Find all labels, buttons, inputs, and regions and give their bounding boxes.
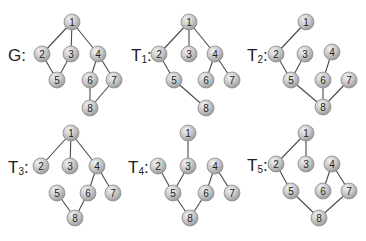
- node-2: 2: [151, 46, 167, 62]
- node-label: 7: [346, 75, 352, 86]
- node-6: 6: [198, 185, 214, 201]
- node-6: 6: [315, 183, 331, 199]
- node-label: 7: [346, 186, 352, 197]
- node-label: 3: [68, 49, 74, 60]
- node-label: 6: [320, 75, 326, 86]
- node-label: 4: [329, 47, 335, 58]
- node-label: 4: [94, 161, 100, 172]
- node-label: 1: [185, 128, 191, 139]
- node-8: 8: [315, 99, 331, 115]
- graph-g: G:12345678: [8, 14, 122, 116]
- graph-t3: T3:12345678: [8, 125, 121, 226]
- node-label: 3: [186, 49, 192, 60]
- node-label: 6: [203, 75, 209, 86]
- node-7: 7: [105, 185, 121, 201]
- node-1: 1: [64, 14, 80, 30]
- graph-t2: T2:12345678: [247, 14, 357, 115]
- node-label: 7: [111, 75, 117, 86]
- node-3: 3: [181, 46, 197, 62]
- graph-t1: T1:12345678: [131, 14, 240, 116]
- node-6: 6: [82, 72, 98, 88]
- node-label: 4: [212, 49, 218, 60]
- node-8: 8: [311, 210, 327, 226]
- node-2: 2: [150, 158, 166, 174]
- node-label: 3: [67, 161, 73, 172]
- node-label: 2: [38, 161, 44, 172]
- node-label: 2: [155, 161, 161, 172]
- graph-label: T1:: [131, 46, 152, 65]
- node-1: 1: [180, 125, 196, 141]
- graph-diagram-canvas: G:12345678T1:12345678T2:12345678T3:12345…: [0, 0, 366, 241]
- node-label: 8: [316, 213, 322, 224]
- node-3: 3: [63, 46, 79, 62]
- graph-label: T2:: [247, 46, 268, 65]
- node-4: 4: [207, 46, 223, 62]
- node-label: 5: [171, 75, 177, 86]
- node-3: 3: [298, 156, 314, 172]
- node-7: 7: [224, 72, 240, 88]
- node-6: 6: [198, 72, 214, 88]
- node-label: 4: [212, 161, 218, 172]
- node-label: 4: [329, 159, 335, 170]
- node-5: 5: [166, 72, 182, 88]
- node-8: 8: [182, 210, 198, 226]
- node-4: 4: [324, 156, 340, 172]
- node-7: 7: [106, 72, 122, 88]
- node-label: 2: [156, 49, 162, 60]
- node-label: 8: [187, 213, 193, 224]
- node-6: 6: [315, 72, 331, 88]
- node-label: 1: [186, 17, 192, 28]
- node-2: 2: [268, 46, 284, 62]
- node-label: 5: [170, 188, 176, 199]
- node-label: 7: [110, 188, 116, 199]
- node-1: 1: [181, 14, 197, 30]
- node-label: 7: [229, 188, 235, 199]
- graph-label: T5:: [247, 156, 268, 175]
- node-8: 8: [67, 210, 83, 226]
- node-label: 3: [303, 159, 309, 170]
- node-7: 7: [341, 183, 357, 199]
- graph-label: T4:: [128, 158, 149, 177]
- node-label: 1: [68, 128, 74, 139]
- node-label: 5: [288, 75, 294, 86]
- graph-label: T3:: [8, 158, 29, 177]
- node-4: 4: [90, 46, 106, 62]
- node-label: 6: [320, 186, 326, 197]
- node-label: 1: [303, 128, 309, 139]
- node-label: 2: [273, 159, 279, 170]
- node-8: 8: [198, 100, 214, 116]
- node-1: 1: [63, 125, 79, 141]
- node-label: 2: [39, 49, 45, 60]
- node-5: 5: [49, 185, 65, 201]
- node-label: 6: [203, 188, 209, 199]
- node-label: 3: [185, 161, 191, 172]
- node-label: 7: [229, 75, 235, 86]
- node-label: 5: [54, 188, 60, 199]
- node-label: 1: [69, 17, 75, 28]
- node-label: 8: [203, 103, 209, 114]
- node-label: 8: [72, 213, 78, 224]
- node-2: 2: [33, 158, 49, 174]
- node-label: 6: [85, 188, 91, 199]
- node-7: 7: [341, 72, 357, 88]
- node-label: 3: [302, 49, 308, 60]
- node-7: 7: [224, 185, 240, 201]
- node-3: 3: [297, 46, 313, 62]
- node-2: 2: [268, 156, 284, 172]
- node-5: 5: [49, 72, 65, 88]
- node-3: 3: [62, 158, 78, 174]
- node-2: 2: [34, 46, 50, 62]
- node-5: 5: [283, 183, 299, 199]
- node-5: 5: [283, 72, 299, 88]
- node-8: 8: [82, 100, 98, 116]
- graph-label: G:: [8, 46, 26, 65]
- node-4: 4: [207, 158, 223, 174]
- node-label: 6: [87, 75, 93, 86]
- graph-t5: T5:12345678: [247, 125, 357, 226]
- node-3: 3: [180, 158, 196, 174]
- node-1: 1: [298, 125, 314, 141]
- node-label: 5: [54, 75, 60, 86]
- node-5: 5: [165, 185, 181, 201]
- node-6: 6: [80, 185, 96, 201]
- node-label: 8: [320, 102, 326, 113]
